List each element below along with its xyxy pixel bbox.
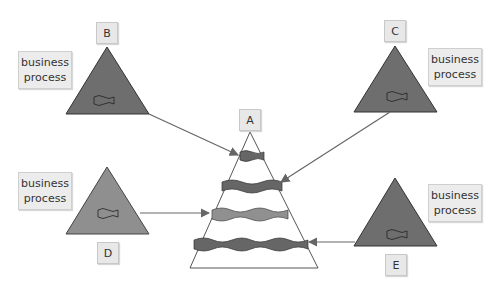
diagram-canvas — [0, 0, 498, 293]
process-triangle-d — [66, 167, 149, 234]
process-triangle-b — [66, 47, 149, 114]
business-process-box-c: business process — [428, 48, 482, 86]
process-triangle-e — [354, 178, 437, 246]
label-d: D — [97, 242, 119, 264]
process-triangle-c — [354, 46, 437, 112]
business-process-box-d: business process — [18, 172, 72, 210]
arrow-b-to-a — [149, 114, 238, 155]
label-a: A — [239, 109, 261, 131]
label-e: E — [385, 254, 407, 276]
arrow-c-to-a — [281, 112, 390, 182]
business-process-box-b: business process — [18, 51, 72, 89]
label-c: C — [384, 20, 406, 42]
label-b: B — [96, 22, 118, 44]
business-process-box-e: business process — [428, 184, 482, 222]
